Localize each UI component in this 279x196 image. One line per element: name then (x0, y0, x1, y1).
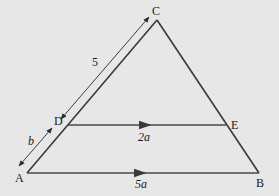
vertex-label-d: D (54, 114, 63, 128)
length-label-cd: 5 (92, 55, 98, 69)
vertex-label-e: E (231, 118, 238, 132)
dimension-cd-arrow (61, 17, 149, 119)
diagram-svg: C D E A B 5 b 2a 5a (0, 0, 279, 196)
side-ac (27, 20, 157, 173)
dimension-da-arrow (19, 128, 52, 166)
vertex-label-a: A (15, 171, 24, 185)
length-label-ab: 5a (135, 177, 147, 191)
length-label-da: b (28, 134, 34, 148)
vertex-label-c: C (152, 4, 160, 18)
vertex-label-b: B (256, 176, 264, 190)
side-cb (157, 20, 259, 173)
length-label-de: 2a (138, 130, 150, 144)
triangle-diagram: C D E A B 5 b 2a 5a (0, 0, 279, 196)
